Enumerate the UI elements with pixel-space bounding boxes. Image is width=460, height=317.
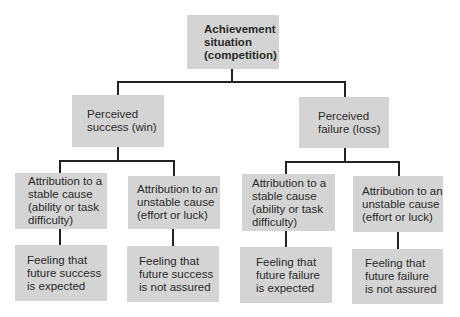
connector-success-stable xyxy=(59,160,61,173)
connector-success-unstable xyxy=(173,160,175,176)
connector-level1-horizontal xyxy=(117,81,346,83)
root-label: Achievement situation (competition) xyxy=(204,23,277,62)
feeling-label: Feeling that future failure is expected xyxy=(256,256,320,295)
node-success-unstable-attribution: Attribution to an unstable cause (effort… xyxy=(128,176,220,229)
success-label: Perceived success (win) xyxy=(87,108,157,134)
connector-c-feeling xyxy=(285,231,287,247)
connector-a-feeling xyxy=(59,229,61,245)
connector-success-horizontal xyxy=(59,160,175,162)
node-failure-not-assured: Feeling that future failure is not assur… xyxy=(352,249,443,304)
node-success-not-assured: Feeling that future success is not assur… xyxy=(127,246,219,302)
connector-failure-unstable xyxy=(398,161,400,176)
connector-b-feeling xyxy=(172,229,174,246)
root-node-achievement-situation: Achievement situation (competition) xyxy=(187,15,279,69)
attribution-label: Attribution to a stable cause (ability o… xyxy=(28,175,102,227)
feeling-label: Feeling that future failure is not assur… xyxy=(365,257,437,296)
node-success-expected: Feeling that future success is expected xyxy=(15,245,107,301)
node-perceived-failure: Perceived failure (loss) xyxy=(299,97,389,148)
failure-label: Perceived failure (loss) xyxy=(318,110,381,136)
connector-failure-stable xyxy=(285,161,287,174)
attribution-label: Attribution to a stable cause (ability o… xyxy=(252,177,326,229)
connector-to-failure xyxy=(344,81,346,97)
node-perceived-success: Perceived success (win) xyxy=(72,95,164,147)
attribution-label: Attribution to an unstable cause (effort… xyxy=(362,185,443,224)
node-failure-unstable-attribution: Attribution to an unstable cause (effort… xyxy=(353,176,443,232)
node-success-stable-attribution: Attribution to a stable cause (ability o… xyxy=(15,173,107,229)
feeling-label: Feeling that future success is not assur… xyxy=(139,255,213,294)
connector-to-success xyxy=(117,81,119,95)
node-failure-expected: Feeling that future failure is expected xyxy=(240,247,332,303)
connector-d-feeling xyxy=(397,232,399,249)
feeling-label: Feeling that future success is expected xyxy=(27,254,101,293)
attribution-label: Attribution to an unstable cause (effort… xyxy=(137,183,218,222)
node-failure-stable-attribution: Attribution to a stable cause (ability o… xyxy=(242,174,335,231)
connector-failure-horizontal xyxy=(285,161,400,163)
